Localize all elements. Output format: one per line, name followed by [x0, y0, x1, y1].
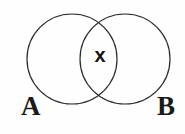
intersection-marker-label: x [91, 45, 109, 65]
set-a-label: A [21, 93, 41, 120]
venn-diagram-figure: A B x [0, 0, 185, 134]
set-b-label: B [157, 93, 175, 120]
